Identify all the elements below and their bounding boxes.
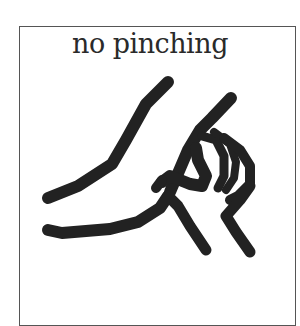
pinching-hand-icon [0, 0, 300, 313]
